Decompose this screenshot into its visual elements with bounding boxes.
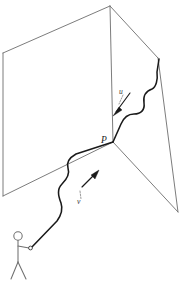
stick-figure-observer — [11, 232, 32, 279]
label-point-p: P — [100, 135, 107, 145]
vector-v-head — [91, 170, 99, 179]
handheld-light-source — [29, 246, 33, 250]
stick-figure-left-leg — [11, 262, 18, 279]
left-plane-face — [3, 6, 113, 196]
reflection-diagram: P u v — [0, 0, 186, 281]
label-vector-v: v — [77, 197, 81, 206]
left-plane — [3, 6, 113, 196]
stick-figure-head — [14, 232, 22, 240]
stick-figure-right-leg — [18, 262, 26, 279]
label-vector-u: u — [119, 87, 123, 96]
stick-figure-arm — [18, 246, 29, 248]
diagram-canvas: P u v — [0, 0, 186, 281]
vector-v-arrow — [82, 170, 99, 187]
